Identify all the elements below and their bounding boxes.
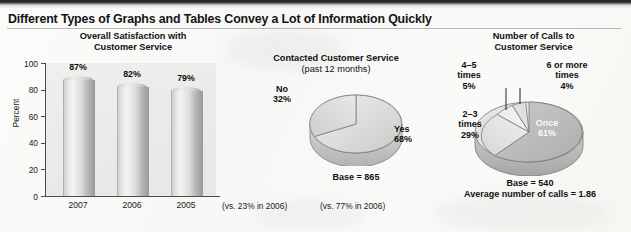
calls-pie-label-once: Once 61% xyxy=(525,118,569,139)
y-axis-tick xyxy=(41,90,46,91)
calls-pie-title-line2: Customer Service xyxy=(446,42,621,53)
bar-chart-title: Overall Satisfaction with Customer Servi… xyxy=(48,31,218,52)
y-axis-tick xyxy=(41,143,46,144)
contacted-pie-label-no-value: 32% xyxy=(260,94,304,104)
contacted-pie-label-yes-name: Yes xyxy=(394,124,428,134)
contacted-pie-title-main: Contacted Customer Service xyxy=(246,53,426,64)
bar-body xyxy=(63,80,95,196)
contacted-pie-panel: Contacted Customer Service (past 12 mont… xyxy=(246,0,426,232)
y-axis-tick xyxy=(41,116,46,117)
calls-pie-label-6-or-more-l2: times xyxy=(534,70,600,80)
bar-body xyxy=(117,87,149,196)
calls-pie-label-4-5-l2: times xyxy=(446,70,492,80)
contacted-pie-subtitle: (past 12 months) xyxy=(246,64,426,75)
calls-pie-label-4-5-times: 4–5 times 5% xyxy=(446,60,492,91)
x-axis-tick-label: 2005 xyxy=(163,200,209,210)
calls-pie-label-once-name: Once xyxy=(525,118,569,128)
y-axis-tick-label: 0 xyxy=(10,192,38,202)
bar-value-label: 79% xyxy=(163,73,209,83)
calls-pie-label-once-value: 61% xyxy=(525,128,569,138)
bar-chart-title-line1: Overall Satisfaction with xyxy=(48,31,218,42)
page-canvas: Different Types of Graphs and Tables Con… xyxy=(0,0,631,232)
table-row[interactable]: 82% xyxy=(117,87,147,196)
contacted-pie-label-no-name: No xyxy=(260,84,304,94)
contacted-pie-graphic xyxy=(306,80,406,166)
calls-pie-label-2-3-value: 29% xyxy=(448,130,492,140)
y-axis-tick xyxy=(41,63,46,64)
bar-chart-panel: Overall Satisfaction with Customer Servi… xyxy=(0,0,245,232)
calls-pie-label-2-3-l2: times xyxy=(448,119,492,129)
calls-pie-base-note: Base = 540 xyxy=(450,178,610,188)
contacted-pie-label-no: No 32% xyxy=(260,84,304,105)
bar-chart-x-axis xyxy=(45,196,220,197)
contacted-pie-base-note: Base = 865 xyxy=(286,172,426,182)
bar-chart-title-line2: Customer Service xyxy=(48,42,218,53)
bar-group: 82% xyxy=(117,63,147,196)
calls-pie-title-line1: Number of Calls to xyxy=(446,31,621,42)
calls-pie-label-6-or-more-value: 4% xyxy=(534,81,600,91)
y-axis-tick-label: 100 xyxy=(10,59,38,69)
calls-pie-label-6-or-more-l1: 6 or more xyxy=(534,60,600,70)
x-axis-tick-label: 2007 xyxy=(55,200,101,210)
y-axis-title: Percent xyxy=(11,83,21,143)
bar-group: 87% xyxy=(63,63,93,196)
contacted-pie-title: Contacted Customer Service (past 12 mont… xyxy=(246,53,426,74)
y-axis-tick xyxy=(41,196,46,197)
bar-value-label: 87% xyxy=(55,62,101,72)
calls-pie-label-2-3-times: 2–3 times 29% xyxy=(448,109,492,140)
calls-pie-title: Number of Calls to Customer Service xyxy=(446,31,621,52)
x-axis-tick-label: 2006 xyxy=(109,200,155,210)
bar-chart-y-axis xyxy=(45,63,46,197)
calls-pie-label-4-5-value: 5% xyxy=(446,81,492,91)
calls-pie-label-4-5-l1: 4–5 xyxy=(446,60,492,70)
table-row[interactable]: 79% xyxy=(171,91,201,196)
bar-value-label: 82% xyxy=(109,69,155,79)
contacted-pie-label-yes: Yes 68% xyxy=(394,124,428,145)
calls-pie-label-2-3-l1: 2–3 xyxy=(448,109,492,119)
calls-pie-average-note: Average number of calls = 1.86 xyxy=(430,189,630,199)
contacted-pie-label-yes-value: 68% xyxy=(394,134,428,144)
y-axis-tick-label: 20 xyxy=(10,165,38,175)
calls-pie-label-6-or-more-times: 6 or more times 4% xyxy=(534,60,600,91)
contacted-pie-footnote: (vs. 77% in 2006) xyxy=(320,201,385,211)
table-row[interactable]: 87% xyxy=(63,80,93,196)
bar-body xyxy=(171,91,203,196)
calls-pie-panel: Number of Calls to Customer Service xyxy=(428,0,631,232)
bar-group: 79% xyxy=(171,63,201,196)
y-axis-tick xyxy=(41,169,46,170)
